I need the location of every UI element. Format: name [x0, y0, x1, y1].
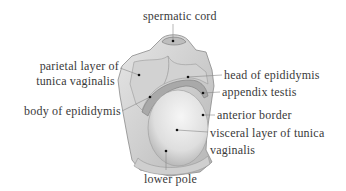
testis-body	[148, 90, 208, 166]
label-anterior-border: anterior border	[217, 108, 292, 122]
label-visceral-layer-line2: vaginalis	[210, 143, 255, 157]
label-parietal-layer-line1: parietal layer of	[0, 59, 119, 73]
label-visceral-layer-line1: visceral layer of tunica	[210, 126, 324, 140]
anatomy-diagram: spermatic cord parietal layer of tunica …	[0, 0, 346, 191]
label-spermatic-cord: spermatic cord	[143, 9, 217, 23]
label-appendix-testis: appendix testis	[222, 85, 297, 99]
label-lower-pole: lower pole	[144, 172, 197, 186]
label-head-of-epididymis: head of epididymis	[224, 68, 320, 82]
label-parietal-layer-line2: tunica vaginalis	[0, 74, 115, 88]
label-body-of-epididymis: body of epididymis	[0, 104, 121, 118]
